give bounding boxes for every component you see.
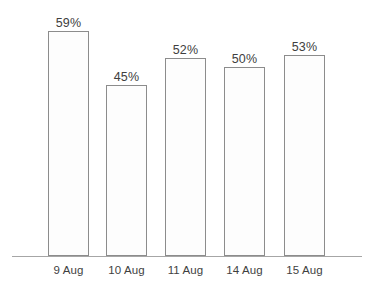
- x-tick-label: 15 Aug: [286, 264, 322, 276]
- bar-item[interactable]: 52% 11 Aug: [165, 58, 206, 256]
- bar-rect[interactable]: [224, 67, 265, 256]
- plot-area: 59% 9 Aug 45% 10 Aug 52% 11 Aug 50% 14 A…: [0, 0, 372, 298]
- bar-item[interactable]: 50% 14 Aug: [224, 67, 265, 256]
- bar-value-label: 53%: [292, 40, 318, 54]
- x-tick-label: 11 Aug: [168, 264, 204, 276]
- bar-value-label: 59%: [56, 16, 82, 30]
- bar-rect[interactable]: [48, 31, 89, 256]
- bar-value-label: 52%: [173, 43, 199, 57]
- bar-value-label: 50%: [232, 52, 258, 66]
- bar-series: 59% 9 Aug 45% 10 Aug 52% 11 Aug 50% 14 A…: [0, 0, 372, 298]
- x-tick-label: 14 Aug: [226, 264, 262, 276]
- bar-rect[interactable]: [106, 85, 147, 256]
- bar-value-label: 45%: [114, 70, 140, 84]
- x-tick-label: 9 Aug: [54, 264, 84, 276]
- bar-rect[interactable]: [165, 58, 206, 256]
- bar-item[interactable]: 45% 10 Aug: [106, 85, 147, 256]
- x-tick-label: 10 Aug: [108, 264, 144, 276]
- bar-item[interactable]: 59% 9 Aug: [48, 31, 89, 256]
- bar-item[interactable]: 53% 15 Aug: [284, 55, 325, 256]
- bar-rect[interactable]: [284, 55, 325, 256]
- bar-chart: 59% 9 Aug 45% 10 Aug 52% 11 Aug 50% 14 A…: [0, 0, 372, 298]
